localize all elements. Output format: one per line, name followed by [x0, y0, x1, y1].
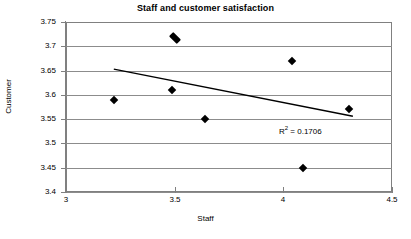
y-tick-label: 3.5 [12, 139, 56, 147]
x-tick-label: 4.5 [372, 196, 411, 204]
chart-container: Staff and customer satisfaction 3.43.453… [0, 0, 411, 239]
x-axis-title: Staff [0, 214, 411, 223]
x-tick-label: 4 [263, 196, 303, 204]
y-tick-label: 3.4 [12, 188, 56, 196]
r-squared-annotation: R2 = 0.1706 [279, 125, 322, 136]
trendline [66, 22, 392, 192]
x-tick-label: 3 [46, 196, 86, 204]
y-tick-label: 3.7 [12, 42, 56, 50]
r-squared-value: = 0.1706 [288, 127, 322, 136]
x-tick-label: 3.5 [155, 196, 195, 204]
y-tick-label: 3.75 [12, 18, 56, 26]
y-axis-title: Customer [4, 67, 13, 127]
y-tick-label: 3.55 [12, 115, 56, 123]
y-tick-label: 3.65 [12, 67, 56, 75]
x-tick-mark [392, 187, 393, 193]
gridline [66, 192, 392, 193]
y-tick-label: 3.45 [12, 164, 56, 172]
y-tick-label: 3.6 [12, 91, 56, 99]
chart-title: Staff and customer satisfaction [0, 3, 411, 13]
